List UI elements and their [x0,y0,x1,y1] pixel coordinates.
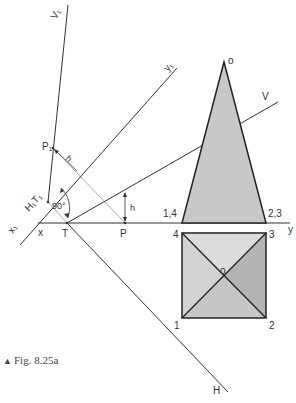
pyramid-elevation [182,62,266,223]
label-h-upper: h [64,153,75,164]
label-2-3: 2,3 [268,208,282,219]
label-p: P [120,228,127,239]
x1y1-line [20,68,177,245]
label-x: x [38,227,43,238]
label-plan-3: 3 [269,229,275,240]
point-t [66,222,69,225]
label-plan-4: 4 [173,229,179,240]
label-v: V [262,91,269,102]
point-p1 [52,147,55,150]
point-p [124,222,127,225]
label-plan-2: 2 [269,320,275,331]
label-apex-o: o [228,55,234,66]
label-v1: V₁ [48,6,63,21]
label-h1t1: H₁T₁ [22,191,44,214]
v1-trace [48,5,68,202]
label-p1: P₁ [42,141,53,152]
label-plan-1: 1 [174,320,180,331]
label-y1: y₁ [161,59,175,73]
label-y: y [288,224,293,235]
label-1-4: 1,4 [163,208,177,219]
pyramid-auxiliary-projection-diagram: V₁ y₁ x₁ H₁T₁ P₁ h h 90° x T P y V H o 1… [0,0,296,403]
label-angle: 90° [52,201,66,211]
label-t: T [62,228,68,239]
label-h: H [213,385,220,396]
label-x1: x₁ [5,222,19,235]
label-h-lower: h [130,203,135,213]
point-h1t1 [47,201,50,204]
caption-marker-icon: ▲ [3,356,12,366]
figure-caption: Fig. 8.25a [14,354,58,366]
arrowhead-icon [123,192,127,197]
label-plan-o: o [220,265,226,276]
